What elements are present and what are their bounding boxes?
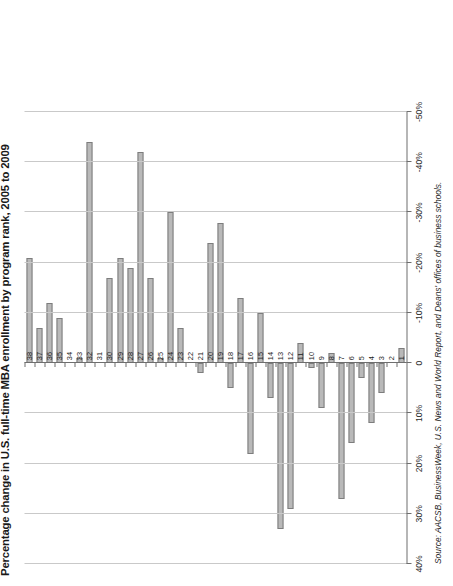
category-label: 7	[336, 356, 345, 360]
page-title: Percentage change in U.S. full-time MBA …	[0, 6, 10, 576]
axis-tick	[406, 563, 411, 564]
category-label: 4	[366, 356, 375, 360]
bar	[86, 142, 92, 363]
category-label: 34	[65, 352, 74, 360]
category-tick	[165, 363, 166, 367]
axis-tick	[406, 111, 411, 112]
gridline-neg40	[24, 161, 406, 162]
category-tick	[84, 363, 85, 367]
bar	[26, 258, 32, 363]
axis-tick	[406, 262, 411, 263]
gridline-neg20	[24, 262, 406, 263]
category-tick	[346, 363, 347, 367]
axis-tick-label: 30%	[413, 505, 423, 522]
category-label: 19	[216, 352, 225, 360]
category-label: 24	[165, 352, 174, 360]
category-tick	[34, 363, 35, 367]
category-tick	[195, 363, 196, 367]
category-label: 33	[75, 352, 84, 360]
axis-tick	[406, 211, 411, 212]
source-note: Source: AACSB, BusinessWeek, U.S. News a…	[432, 182, 442, 564]
rotated-page-frame: Percentage change in U.S. full-time MBA …	[0, 0, 453, 586]
category-tick	[175, 363, 176, 367]
chart-page: Percentage change in U.S. full-time MBA …	[0, 0, 453, 586]
category-tick	[316, 363, 317, 367]
axis-tick	[406, 513, 411, 514]
category-tick	[205, 363, 206, 367]
category-label: 30	[105, 352, 114, 360]
gridline-20	[24, 463, 406, 464]
category-label: 18	[226, 352, 235, 360]
axis-tick-label: -50%	[413, 102, 423, 122]
category-label: 6	[346, 356, 355, 360]
category-tick	[104, 363, 105, 367]
axis-tick-label: 0	[413, 361, 423, 366]
category-tick	[215, 363, 216, 367]
category-label: 3	[376, 356, 385, 360]
bar	[247, 363, 253, 453]
category-label: 13	[276, 352, 285, 360]
category-tick	[376, 363, 377, 367]
category-tick	[305, 363, 306, 367]
category-label: 28	[125, 352, 134, 360]
category-tick	[185, 363, 186, 367]
bar	[127, 268, 133, 363]
category-tick	[326, 363, 327, 367]
category-tick	[94, 363, 95, 367]
bar	[348, 363, 354, 443]
bar	[378, 363, 384, 393]
bar	[368, 363, 374, 423]
category-label: 26	[145, 352, 154, 360]
category-tick	[356, 363, 357, 367]
gridline-neg50	[24, 111, 406, 112]
category-tick	[135, 363, 136, 367]
axis-tick	[406, 362, 411, 363]
bar	[267, 363, 273, 398]
category-tick	[386, 363, 387, 367]
gridline-30	[24, 513, 406, 514]
bar-series	[24, 112, 406, 564]
value-axis-line	[406, 112, 407, 564]
category-tick	[295, 363, 296, 367]
bar	[217, 223, 223, 364]
category-label: 9	[316, 356, 325, 360]
axis-tick-label: 10%	[413, 405, 423, 422]
gridline-10	[24, 412, 406, 413]
category-tick	[44, 363, 45, 367]
category-tick	[114, 363, 115, 367]
axis-tick-label: -30%	[413, 202, 423, 222]
axis-tick-label: -40%	[413, 152, 423, 172]
category-label: 17	[236, 352, 245, 360]
category-label: 38	[25, 352, 34, 360]
bar	[308, 363, 314, 368]
category-tick	[64, 363, 65, 367]
category-label: 35	[55, 352, 64, 360]
category-label: 2	[386, 356, 395, 360]
bar	[338, 363, 344, 499]
category-label: 36	[45, 352, 54, 360]
category-label: 37	[35, 352, 44, 360]
bar	[318, 363, 324, 408]
category-label: 29	[115, 352, 124, 360]
category-tick	[396, 363, 397, 367]
category-label: 22	[185, 352, 194, 360]
category-tick	[255, 363, 256, 367]
category-label: 27	[135, 352, 144, 360]
category-label: 31	[95, 352, 104, 360]
axis-tick	[406, 412, 411, 413]
axis-tick-label: -20%	[413, 253, 423, 273]
category-label: 5	[356, 356, 365, 360]
category-tick	[275, 363, 276, 367]
category-label: 14	[266, 352, 275, 360]
category-tick	[54, 363, 55, 367]
category-tick	[235, 363, 236, 367]
axis-tick-label: -10%	[413, 303, 423, 323]
category-tick	[285, 363, 286, 367]
bar	[167, 212, 173, 363]
bar	[197, 363, 203, 373]
gridline-40	[24, 563, 406, 564]
bar	[287, 363, 293, 509]
category-tick	[225, 363, 226, 367]
category-tick	[155, 363, 156, 367]
category-label: 21	[195, 352, 204, 360]
